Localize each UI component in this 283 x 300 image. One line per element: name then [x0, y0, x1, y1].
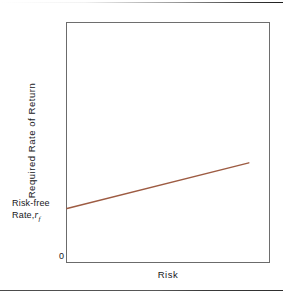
page-rule-top	[0, 2, 283, 3]
figure-container: Required Rate of Return Risk Risk-free R…	[0, 0, 283, 300]
x-axis-label: Risk	[66, 269, 270, 280]
plot-frame	[66, 22, 270, 263]
page-rule-bottom	[0, 290, 283, 291]
risk-free-rate-annotation: Risk-free Rate,rf	[12, 198, 64, 225]
origin-label: 0	[52, 251, 64, 261]
risk-free-rate-line2-text: Rate,	[12, 210, 35, 220]
risk-free-rate-subscript: f	[38, 214, 40, 222]
risk-free-rate-line1: Risk-free	[12, 198, 64, 210]
risk-free-rate-line2: Rate,rf	[12, 210, 64, 225]
